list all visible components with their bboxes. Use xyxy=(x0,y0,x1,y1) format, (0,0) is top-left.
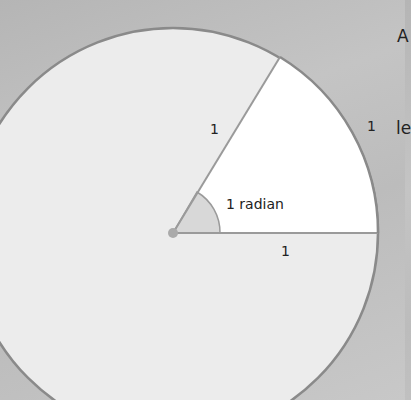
radius-label-upper: 1 xyxy=(210,121,219,137)
center-point xyxy=(168,228,178,238)
arc-label: 1 xyxy=(367,118,376,134)
angle-label: 1 radian xyxy=(226,196,284,212)
edge-text-mid: le xyxy=(396,118,411,138)
radius-label-lower: 1 xyxy=(281,243,290,259)
edge-text-top: A xyxy=(397,26,409,46)
